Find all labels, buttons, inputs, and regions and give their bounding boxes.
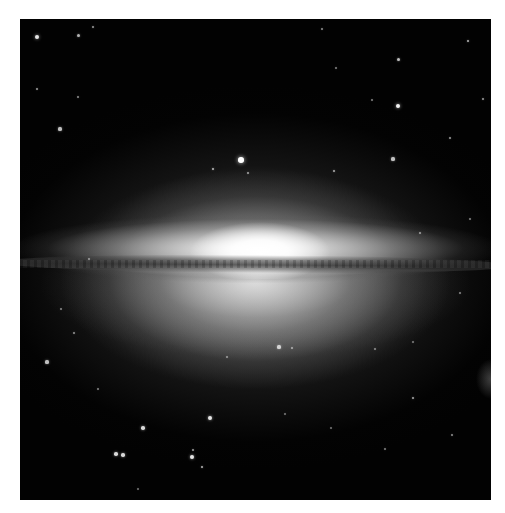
star: [141, 426, 145, 430]
star: [97, 388, 99, 390]
star: [137, 488, 139, 490]
star: [226, 356, 228, 358]
galaxy-photo: [20, 19, 491, 500]
star: [35, 35, 39, 39]
star: [114, 452, 118, 456]
star: [60, 308, 62, 310]
star: [284, 413, 286, 415]
star: [88, 258, 90, 260]
star: [208, 416, 212, 420]
dust-lane-texture: [20, 260, 491, 268]
star: [459, 292, 461, 294]
star: [321, 28, 323, 30]
star: [92, 26, 95, 29]
star: [77, 34, 80, 37]
star: [238, 157, 244, 163]
star: [412, 341, 414, 343]
star: [58, 127, 61, 130]
star: [397, 58, 400, 61]
star: [371, 99, 373, 101]
star: [330, 427, 332, 429]
star: [45, 360, 48, 363]
lower-halo-glow: [40, 269, 471, 419]
star: [190, 455, 194, 459]
star: [277, 345, 280, 348]
edge-glare-artifact: [467, 359, 491, 399]
star: [467, 40, 470, 43]
star: [391, 157, 394, 160]
star: [121, 453, 125, 457]
